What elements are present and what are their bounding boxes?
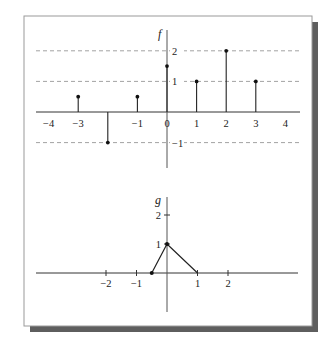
stem-marker	[254, 80, 258, 84]
x-tick-label: −4	[43, 118, 55, 129]
x-tick-label: 0	[164, 118, 169, 129]
x-tick-label: 4	[283, 118, 289, 129]
x-tick-label: −2	[100, 278, 111, 289]
y-tick-label: 2	[172, 46, 177, 57]
stem-marker	[224, 49, 228, 53]
point-marker	[150, 271, 154, 275]
x-tick-label: −3	[73, 118, 84, 129]
x-tick-label: −1	[131, 278, 142, 289]
figure-panel: −4−3−10123421−1 f −2−11221 g	[0, 0, 334, 351]
y-tick-label: 1	[156, 239, 161, 250]
g-axis-label: g	[155, 193, 161, 207]
x-tick-label: 1	[195, 278, 200, 289]
stem-marker	[165, 64, 169, 68]
x-tick-label: 2	[224, 118, 229, 129]
stem-marker	[106, 141, 110, 145]
y-tick-label: −1	[172, 138, 183, 149]
stem-marker	[136, 95, 140, 99]
y-tick-label: 2	[156, 210, 161, 221]
point-marker	[165, 242, 169, 246]
x-tick-label: 1	[194, 118, 199, 129]
x-tick-label: −1	[132, 118, 143, 129]
frame-border	[24, 16, 312, 326]
figure-canvas: −4−3−10123421−1 f −2−11221 g	[0, 0, 334, 351]
y-tick-label: 1	[172, 76, 177, 87]
stem-marker	[195, 80, 199, 84]
x-tick-label: 2	[225, 278, 230, 289]
x-tick-label: 3	[253, 118, 258, 129]
stem-marker	[76, 95, 80, 99]
